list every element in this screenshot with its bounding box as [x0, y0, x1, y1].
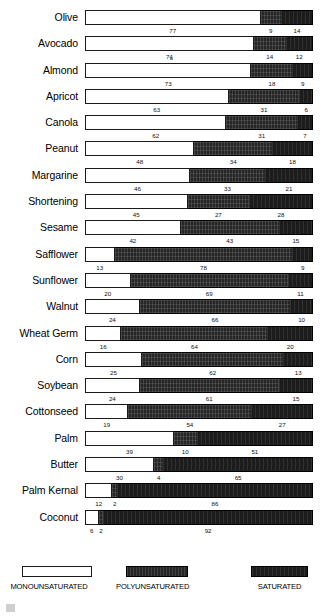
row-label-butter: Butter — [0, 458, 78, 471]
bar-segment-polyunsaturated — [251, 63, 292, 78]
bar-segment-saturated — [286, 36, 313, 51]
value-monounsaturated: 48 — [85, 156, 194, 167]
bar-segment-polyunsaturated — [229, 89, 300, 104]
value-monounsaturated: 77 — [85, 25, 261, 36]
bar-segment-polyunsaturated — [128, 404, 251, 419]
stacked-bar — [85, 115, 313, 130]
value-polyunsaturated: 69 — [131, 288, 288, 299]
value-monounsaturated: 16 — [85, 341, 121, 352]
value-polyunsaturated: 33 — [190, 183, 265, 194]
row-label-olive: Olive — [0, 11, 78, 24]
bar-segment-saturated — [267, 326, 313, 341]
chart-row: Sesame424315 — [0, 220, 331, 246]
stacked-bar — [85, 220, 313, 235]
stacked-bar — [85, 510, 313, 525]
row-label-sesame: Sesame — [0, 221, 78, 234]
row-label-corn: Corn — [0, 353, 78, 366]
bar-segment-monounsaturated — [85, 115, 226, 130]
chart-row: Apricot63316 — [0, 89, 331, 115]
bar-wrapper — [85, 168, 313, 183]
bar-wrapper — [85, 36, 313, 51]
bar-wrapper — [85, 89, 313, 104]
bar-segment-saturated — [283, 352, 313, 367]
value-monounsaturated: 13 — [85, 262, 115, 273]
legend-label-monounsaturated: MONOUNSATURATED — [6, 580, 92, 593]
bar-segment-monounsaturated — [85, 273, 131, 288]
value-saturated: 6 — [299, 104, 313, 115]
value-saturated: 15 — [279, 393, 313, 404]
value-polyunsaturated: 61 — [140, 393, 279, 404]
bar-value-labels: 256213 — [85, 367, 313, 378]
bar-value-labels: 195427 — [85, 419, 313, 430]
bar-segment-saturated — [299, 89, 313, 104]
stacked-bar — [85, 378, 313, 393]
bar-value-labels: 391051 — [85, 446, 313, 457]
stacked-bar — [85, 36, 313, 51]
legend-item-polyunsaturated: POLYUNSATURATED — [126, 566, 188, 593]
bar-segment-polyunsaturated — [194, 141, 272, 156]
bar-segment-saturated — [272, 141, 313, 156]
stacked-bar — [85, 273, 313, 288]
value-polyunsaturated: 10 — [174, 446, 197, 457]
chart-row: Wheat Germ166420 — [0, 326, 331, 352]
bar-value-labels: 63316 — [85, 104, 313, 115]
bar-segment-monounsaturated — [85, 36, 254, 51]
bar-segment-saturated — [249, 194, 313, 209]
bar-segment-monounsaturated — [85, 89, 229, 104]
value-monounsaturated: 24 — [85, 393, 140, 404]
value-monounsaturated: 45 — [85, 209, 188, 220]
legend-label-saturated: SATURATED — [251, 580, 308, 593]
bar-wrapper — [85, 273, 313, 288]
bar-segment-monounsaturated — [85, 168, 190, 183]
value-monounsaturated: 73 — [85, 78, 251, 89]
bar-segment-saturated — [279, 378, 313, 393]
stacked-bar-chart: Olive77914Avocado741412Almond73189Aprico… — [0, 0, 331, 616]
bar-wrapper — [85, 510, 313, 525]
bar-wrapper — [85, 483, 313, 498]
value-monounsaturated: 39 — [85, 446, 174, 457]
chart-row: Walnut246610 — [0, 299, 331, 325]
value-saturated: 14 — [281, 25, 313, 36]
legend-swatch-monounsaturated — [22, 566, 92, 577]
row-label-shortening: Shortening — [0, 195, 78, 208]
value-monounsaturated: 62 — [85, 130, 226, 141]
stacked-bar — [85, 10, 313, 25]
row-label-avocado: Avocado — [0, 37, 78, 50]
stacked-bar — [85, 89, 313, 104]
chart-row: Peanut483418 — [0, 141, 331, 167]
bar-segment-saturated — [290, 299, 313, 314]
value-polyunsaturated: 9 — [261, 25, 282, 36]
bar-segment-polyunsaturated — [226, 115, 297, 130]
chart-row: Coconut6292 — [0, 510, 331, 536]
bar-segment-polyunsaturated — [188, 194, 250, 209]
value-saturated: 28 — [249, 209, 313, 220]
value-saturated: 18 — [272, 156, 313, 167]
chart-row: Sunflower206911 — [0, 273, 331, 299]
bar-value-labels: 6292 — [85, 525, 313, 536]
bar-segment-monounsaturated — [85, 510, 99, 525]
bar-wrapper — [85, 299, 313, 314]
value-saturated: 27 — [251, 419, 313, 430]
row-label-walnut: Walnut — [0, 300, 78, 313]
legend-label-polyunsaturated: POLYUNSATURATED — [116, 580, 188, 593]
chart-row: Butter30465 — [0, 457, 331, 483]
bar-wrapper — [85, 431, 313, 446]
bar-segment-saturated — [297, 115, 313, 130]
value-monounsaturated: 20 — [85, 288, 131, 299]
value-polyunsaturated: 78 — [115, 262, 293, 273]
bar-value-labels: 424315 — [85, 235, 313, 246]
bar-segment-saturated — [163, 457, 313, 472]
chart-row: Palm391051 — [0, 431, 331, 457]
value-saturated: 10 — [290, 314, 313, 325]
value-monounsaturated: 6 — [85, 525, 99, 536]
stacked-bar — [85, 141, 313, 156]
row-label-soybean: Soybean — [0, 379, 78, 392]
bar-value-labels: 30465 — [85, 472, 313, 483]
legend-swatch-polyunsaturated — [126, 566, 188, 577]
chart-row: Cottonseed195427 — [0, 404, 331, 430]
row-label-peanut: Peanut — [0, 142, 78, 155]
chart-legend: MONOUNSATURATED POLYUNSATURATED SATURATE… — [0, 566, 331, 598]
chart-rows: Olive77914Avocado741412Almond73189Aprico… — [0, 10, 331, 536]
bar-segment-monounsaturated — [85, 247, 115, 262]
value-saturated: 7 — [297, 130, 313, 141]
